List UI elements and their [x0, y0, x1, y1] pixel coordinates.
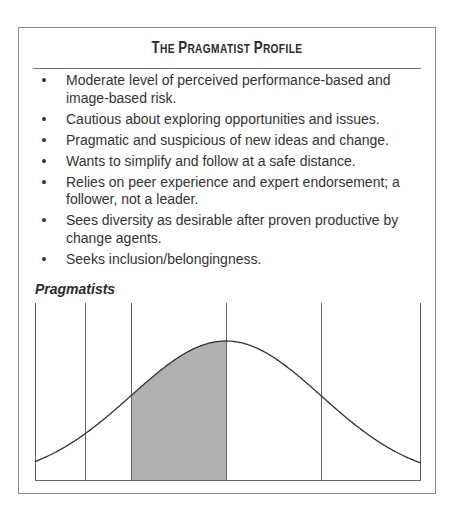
shaded-segment: [131, 341, 226, 480]
bell-curve-chart: [0, 0, 459, 513]
segment-dividers: [36, 303, 421, 480]
bell-curve-line: [35, 341, 421, 463]
